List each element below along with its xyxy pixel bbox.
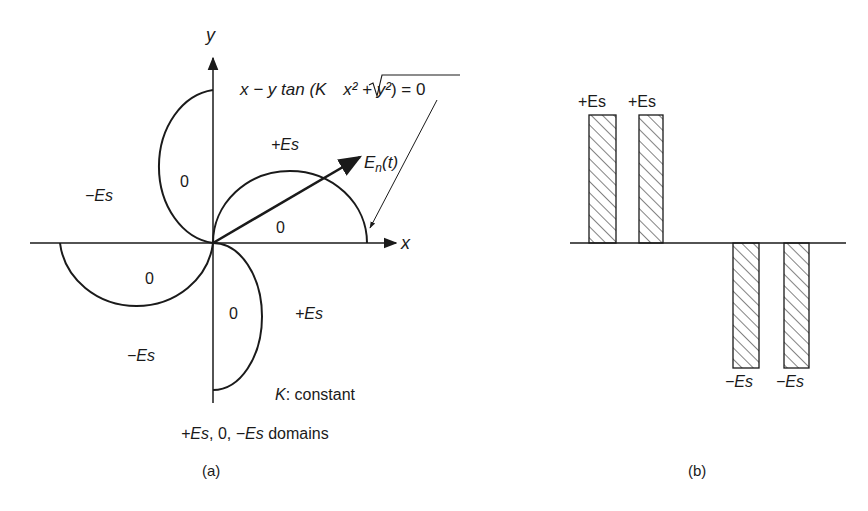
region-label-q4-inner: 0 <box>229 306 238 322</box>
region-label-q3-inner: 0 <box>145 271 154 287</box>
bar-label-1: +Es <box>578 94 606 110</box>
equation-rhs: ) = 0 <box>391 80 426 99</box>
region-label-q1-inner: 0 <box>276 220 285 236</box>
bar-label-3: −Es <box>725 374 753 390</box>
bar-label-2: +Es <box>628 94 656 110</box>
boundary-curve-q1 <box>213 171 367 243</box>
region-label-q4-outer: +Es <box>295 306 323 322</box>
figure-b <box>570 115 846 368</box>
equation-radicand: x² + y² <box>343 80 391 99</box>
figure-a <box>30 58 460 403</box>
boundary-curve-q2 <box>159 90 213 243</box>
bar-negative-2 <box>784 243 809 368</box>
vector-en <box>213 157 360 243</box>
bar-negative-1 <box>733 243 759 368</box>
region-label-q3-outer: −Es <box>127 348 155 364</box>
y-axis-label: y <box>206 26 215 44</box>
x-axis-label: x <box>401 234 410 252</box>
equation-lhs: x − y tan (K <box>240 80 331 99</box>
bar-label-4: −Es <box>776 374 804 390</box>
boundary-curve-q3 <box>60 243 213 306</box>
note-k-constant: K: constant <box>275 387 355 403</box>
vector-label: En(t) <box>364 154 398 174</box>
caption-a: (a) <box>202 463 220 478</box>
region-label-q2-outer: −Es <box>85 188 113 204</box>
bar-positive-1 <box>589 115 616 243</box>
note-domains: +Es, 0, −Es domains <box>181 426 329 442</box>
caption-b: (b) <box>688 463 706 478</box>
boundary-equation: x − y tan (K x² + y²) = 0 <box>240 81 425 98</box>
bar-positive-2 <box>639 115 663 243</box>
region-label-q2-inner: 0 <box>180 174 189 190</box>
diagram-canvas <box>0 0 868 511</box>
region-label-q1-outer: +Es <box>271 137 299 153</box>
